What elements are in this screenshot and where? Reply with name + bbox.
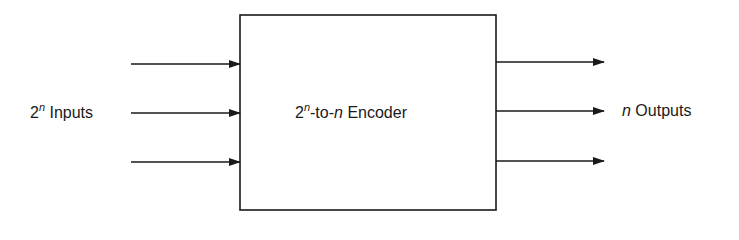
inputs-label: 2n Inputs [30, 103, 93, 123]
inputs-label-base: 2 [30, 104, 39, 121]
inputs-label-text: Inputs [45, 104, 93, 121]
output-arrows [496, 62, 604, 161]
encoder-label-var: n [334, 104, 343, 121]
outputs-label-var: n [622, 102, 631, 119]
encoder-label-mid: -to- [310, 104, 334, 121]
encoder-label-text: Encoder [343, 104, 407, 121]
encoder-label: 2n-to-n Encoder [295, 103, 407, 123]
input-arrows [131, 64, 240, 162]
encoder-label-base: 2 [295, 104, 304, 121]
outputs-label: n Outputs [622, 101, 691, 121]
outputs-label-text: Outputs [631, 102, 691, 119]
